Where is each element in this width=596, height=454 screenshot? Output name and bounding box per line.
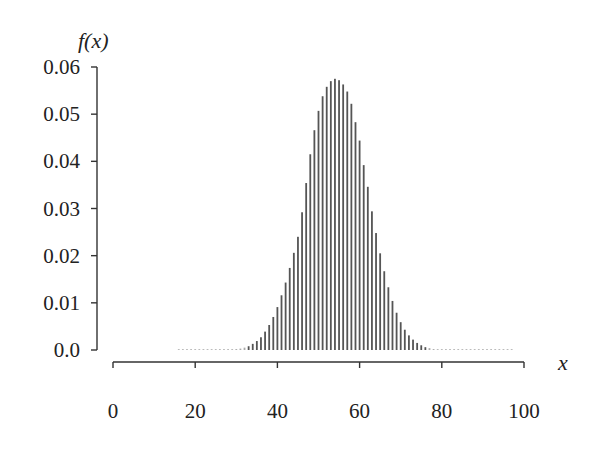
- bar: [297, 237, 299, 350]
- bar: [482, 349, 484, 350]
- bar: [178, 349, 180, 350]
- bar: [186, 349, 188, 350]
- bar: [231, 349, 233, 350]
- bar: [244, 348, 246, 350]
- bar: [375, 233, 377, 350]
- bar: [260, 337, 262, 350]
- y-axis: 0.00.010.020.030.040.050.06: [43, 55, 97, 362]
- bar: [223, 349, 225, 350]
- bar: [383, 271, 385, 350]
- bar: [511, 349, 513, 350]
- bar: [203, 349, 205, 350]
- bar: [305, 183, 307, 350]
- bar: [190, 349, 192, 350]
- bar: [293, 253, 295, 350]
- bar: [433, 349, 435, 350]
- bar: [289, 268, 291, 350]
- bar: [396, 313, 398, 350]
- bar: [285, 283, 287, 350]
- x-axis-label: x: [557, 350, 568, 375]
- bar: [371, 211, 373, 350]
- bar: [272, 317, 274, 350]
- bar: [268, 325, 270, 350]
- bar: [453, 349, 455, 350]
- bar: [215, 349, 217, 350]
- y-tick-label: 0.04: [43, 149, 80, 173]
- bar: [474, 349, 476, 350]
- bar: [342, 84, 344, 350]
- bar: [490, 349, 492, 350]
- bar: [211, 349, 213, 350]
- bar: [256, 341, 258, 350]
- bar: [194, 349, 196, 350]
- y-tick-label: 0.01: [43, 291, 80, 315]
- bar: [281, 295, 283, 350]
- bar: [449, 349, 451, 350]
- bar: [338, 80, 340, 350]
- x-tick-label: 0: [108, 399, 119, 423]
- bar: [264, 332, 266, 350]
- bar: [355, 122, 357, 350]
- bar: [441, 349, 443, 350]
- bar: [494, 349, 496, 350]
- bar: [478, 349, 480, 350]
- bar: [408, 335, 410, 350]
- bar: [367, 187, 369, 350]
- y-tick-label: 0.05: [43, 102, 80, 126]
- bar: [503, 349, 505, 350]
- bar: [429, 348, 431, 350]
- bar: [334, 79, 336, 350]
- bar: [470, 349, 472, 350]
- bar: [322, 96, 324, 350]
- bar: [198, 349, 200, 350]
- bar: [227, 349, 229, 350]
- bars: [178, 79, 513, 350]
- bar: [387, 287, 389, 350]
- bar: [392, 301, 394, 350]
- bar: [379, 253, 381, 350]
- bar: [461, 349, 463, 350]
- bar: [498, 349, 500, 350]
- bar: [277, 307, 279, 350]
- bar: [363, 165, 365, 350]
- bar: [313, 130, 315, 350]
- bar: [400, 322, 402, 350]
- bar: [404, 330, 406, 350]
- bar: [412, 340, 414, 350]
- x-tick-label: 60: [349, 399, 370, 423]
- bar: [420, 345, 422, 350]
- bar: [326, 87, 328, 350]
- y-tick-label: 0.06: [43, 55, 80, 79]
- bar: [207, 349, 209, 350]
- bar: [252, 344, 254, 350]
- x-axis: 020406080100: [108, 362, 540, 423]
- x-tick-label: 40: [267, 399, 288, 423]
- bar: [235, 349, 237, 350]
- bar: [248, 346, 250, 350]
- bar: [445, 349, 447, 350]
- bar: [330, 81, 332, 350]
- probability-mass-chart: f(x) x 0.00.010.020.030.040.050.06 02040…: [0, 0, 596, 454]
- bar: [240, 349, 242, 350]
- bar: [359, 141, 361, 350]
- y-axis-label: f(x): [78, 28, 109, 53]
- bar: [486, 349, 488, 350]
- x-tick-label: 100: [508, 399, 540, 423]
- bar: [437, 349, 439, 350]
- bar: [309, 154, 311, 350]
- y-tick-label: 0.0: [54, 338, 80, 362]
- y-tick-label: 0.02: [43, 244, 80, 268]
- bar: [301, 212, 303, 350]
- bar: [346, 92, 348, 350]
- x-tick-label: 80: [431, 399, 452, 423]
- bar: [457, 349, 459, 350]
- x-tick-label: 20: [185, 399, 206, 423]
- bar: [507, 349, 509, 350]
- bar: [219, 349, 221, 350]
- bar: [318, 111, 320, 350]
- bar: [424, 347, 426, 350]
- bar: [350, 104, 352, 350]
- y-tick-label: 0.03: [43, 197, 80, 221]
- bar: [182, 349, 184, 350]
- bar: [466, 349, 468, 350]
